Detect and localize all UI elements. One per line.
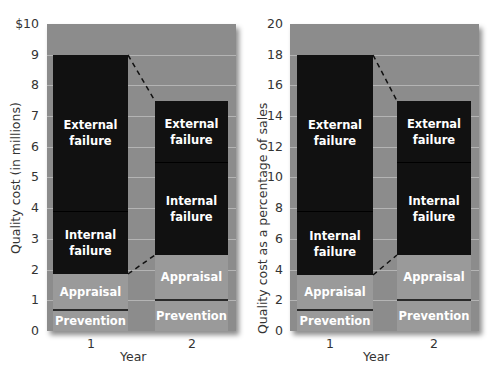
y-axis-label: Quality cost as a percentage of sales [255,103,270,334]
bar-year-2: External failure Internal failure Apprai… [155,101,228,331]
segment-internal-failure: Internal failure [53,212,128,274]
y-tick: 0 [5,324,39,338]
x-tick: 1 [320,336,340,351]
segment-appraisal: Appraisal [297,275,373,309]
segment-label: Appraisal [403,269,464,285]
segment-internal-failure: Internal failure [397,163,471,255]
x-axis-label: Year [363,349,389,364]
segment-internal-failure: Internal failure [155,163,228,255]
segment-appraisal: Appraisal [53,274,128,309]
segment-label: Internal failure [162,193,222,225]
x-tick: 1 [81,336,101,351]
segment-external-failure: External failure [297,55,373,211]
y-tick: 1 [5,293,39,307]
plot-area: External failure Internal failure Apprai… [290,24,479,331]
segment-label: Appraisal [60,284,121,300]
x-tick: 2 [182,336,202,351]
segment-label: Internal failure [404,193,464,225]
segment-prevention: Prevention [297,311,373,331]
x-tick: 2 [424,336,444,351]
bar-year-2: External failure Internal failure Apprai… [397,101,471,331]
segment-label: Prevention [399,308,470,324]
segment-label: Prevention [300,313,371,329]
right-chart-quality-cost-percent-sales: 20 18 16 14 12 10 8 6 4 2 0 Quality cost… [250,0,501,377]
segment-external-failure: External failure [397,101,471,162]
left-chart-quality-cost-millions: $10 9 8 7 6 5 4 3 2 1 0 Quality cost (in… [0,0,250,377]
y-tick: 2 [5,263,39,277]
segment-label: Prevention [55,313,126,329]
segment-prevention: Prevention [397,301,471,331]
bar-year-1: External failure Internal failure Apprai… [297,55,373,331]
y-tick: 20 [249,17,283,31]
segment-label: Appraisal [161,269,222,285]
segment-appraisal: Appraisal [397,255,471,299]
plot-area: External failure Internal failure Apprai… [47,24,236,331]
segment-internal-failure: Internal failure [297,212,373,275]
bar-year-1: External failure Internal failure Apprai… [53,55,128,331]
y-tick: 16 [249,78,283,92]
segment-label: External failure [61,117,121,149]
segment-appraisal: Appraisal [155,255,228,299]
segment-prevention: Prevention [53,311,128,331]
y-tick: 8 [5,78,39,92]
segment-external-failure: External failure [53,55,128,211]
y-axis-label: Quality cost (in millions) [8,102,23,254]
segment-prevention: Prevention [155,301,228,331]
segment-label: Appraisal [304,284,365,300]
segment-external-failure: External failure [155,101,228,162]
y-tick: 9 [5,48,39,62]
y-tick: 18 [249,48,283,62]
y-tick: $10 [5,17,39,31]
segment-label: External failure [305,117,365,149]
segment-label: Internal failure [305,228,365,260]
segment-label: Internal failure [61,227,121,259]
segment-label: External failure [162,116,222,148]
segment-label: External failure [404,116,464,148]
segment-label: Prevention [156,308,227,324]
x-axis-label: Year [120,349,146,364]
